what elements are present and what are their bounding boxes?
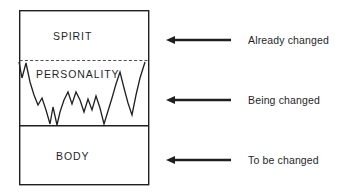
diagram-canvas: SPIRIT PERSONALITY BODY Already changed … xyxy=(0,0,356,195)
arrow-head xyxy=(166,36,175,44)
annotation-label-being-changed: Being changed xyxy=(248,94,320,106)
annotation-label-to-be-changed: To be changed xyxy=(248,154,319,166)
arrow-already-changed xyxy=(166,36,231,44)
zone-label-personality: PERSONALITY xyxy=(36,68,119,80)
zone-label-spirit: SPIRIT xyxy=(53,30,92,42)
annotation-label-already-changed: Already changed xyxy=(248,34,329,46)
arrow-to-be-changed xyxy=(166,156,231,164)
arrow-head xyxy=(166,96,175,104)
arrow-being-changed xyxy=(166,96,231,104)
arrow-head xyxy=(166,156,175,164)
zone-label-body: BODY xyxy=(56,150,89,162)
